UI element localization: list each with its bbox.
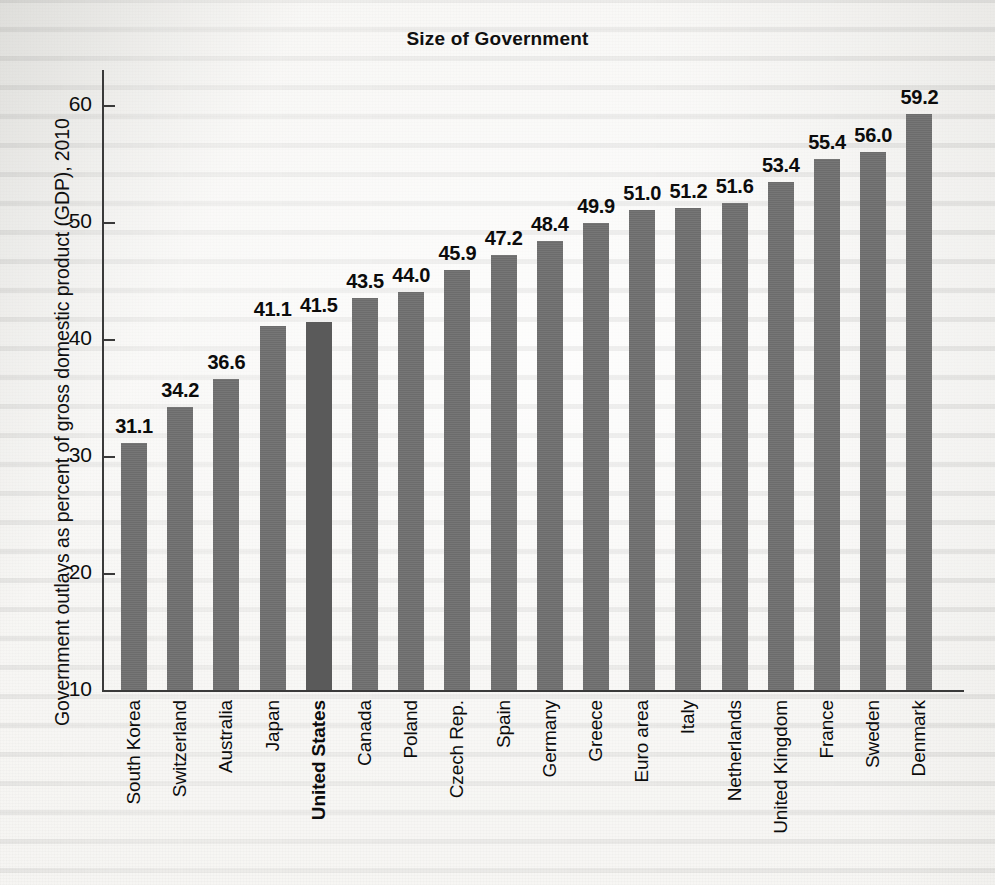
x-axis-category-label: Denmark [909, 700, 929, 776]
bar: 47.2Spain [491, 255, 517, 690]
y-tick-mark [104, 456, 115, 458]
x-axis-category-label: Switzerland [170, 700, 190, 797]
y-tick-label: 60 [32, 93, 92, 115]
bar: 41.1Japan [260, 326, 286, 690]
bar: 49.9Greece [583, 223, 609, 690]
bar-value-label: 44.0 [392, 264, 430, 287]
x-axis-category-label: Spain [494, 700, 514, 748]
bar-value-label: 45.9 [439, 242, 477, 265]
y-tick-label: 10 [32, 678, 92, 700]
bar: 55.4France [814, 159, 840, 690]
chart-title: Size of Government [0, 28, 995, 50]
y-tick-mark [104, 573, 115, 575]
bar-value-label: 53.4 [762, 154, 800, 177]
bar-value-label: 59.2 [901, 86, 939, 109]
x-axis-category-label: France [817, 700, 837, 759]
bar: 34.2Switzerland [167, 407, 193, 690]
bar-value-label: 36.6 [208, 351, 246, 374]
x-axis-category-label: Japan [263, 700, 283, 751]
y-tick-mark [104, 690, 115, 692]
bar-value-label: 41.1 [254, 298, 292, 321]
bar: 51.2Italy [675, 208, 701, 690]
bar: 36.6Australia [213, 379, 239, 690]
y-tick-mark [104, 105, 115, 107]
bar: 48.4Germany [537, 241, 563, 690]
y-axis-line [102, 70, 104, 692]
bar-value-label: 51.2 [670, 180, 708, 203]
x-axis-category-label: Germany [540, 700, 560, 777]
x-axis-category-label: Italy [678, 700, 698, 734]
x-axis-category-label: Poland [401, 700, 421, 759]
x-axis-category-label: Sweden [863, 700, 883, 768]
x-axis-category-label: Greece [586, 700, 606, 762]
bar: 59.2Denmark [906, 114, 932, 690]
y-tick-label: 50 [32, 210, 92, 232]
bar-value-label: 34.2 [161, 379, 199, 402]
bar: 43.5Canada [352, 298, 378, 690]
bar: 51.0Euro area [629, 210, 655, 690]
x-axis-category-label: Australia [216, 700, 236, 773]
bar: 53.4United Kingdom [768, 182, 794, 690]
bar: 41.5United States [306, 322, 332, 690]
bar-value-label: 48.4 [531, 213, 569, 236]
x-axis-category-label: United Kingdom [771, 700, 791, 834]
bar: 31.1South Korea [121, 443, 147, 690]
bar-value-label: 49.9 [577, 195, 615, 218]
bar-value-label: 41.5 [300, 294, 338, 317]
plot-area: 102030405060 31.1South Korea34.2Switzerl… [102, 70, 964, 692]
y-tick-label: 40 [32, 327, 92, 349]
chart-figure: Size of Government Government outlays as… [0, 0, 995, 885]
x-axis-category-label: Czech Rep. [447, 700, 467, 798]
x-axis-category-label: United States [309, 700, 329, 820]
x-axis-category-label: Euro area [632, 700, 652, 783]
bar: 51.6Netherlands [722, 203, 748, 690]
y-tick-mark [104, 222, 115, 224]
bar-value-label: 51.6 [716, 175, 754, 198]
bar: 56.0Sweden [860, 152, 886, 690]
bar: 44.0Poland [398, 292, 424, 690]
bar: 45.9Czech Rep. [444, 270, 470, 690]
x-axis-category-label: Canada [355, 700, 375, 766]
bar-value-label: 51.0 [623, 182, 661, 205]
bar-value-label: 47.2 [485, 227, 523, 250]
y-tick-label: 20 [32, 561, 92, 583]
y-tick-label: 30 [32, 444, 92, 466]
bar-value-label: 56.0 [854, 124, 892, 147]
bar-value-label: 31.1 [115, 415, 153, 438]
x-axis-category-label: South Korea [124, 700, 144, 805]
bar-value-label: 55.4 [808, 131, 846, 154]
x-axis-line [102, 690, 964, 692]
y-axis-label: Government outlays as percent of gross d… [42, 26, 82, 726]
x-axis-category-label: Netherlands [725, 700, 745, 801]
bar-value-label: 43.5 [346, 270, 384, 293]
y-tick-mark [104, 339, 115, 341]
